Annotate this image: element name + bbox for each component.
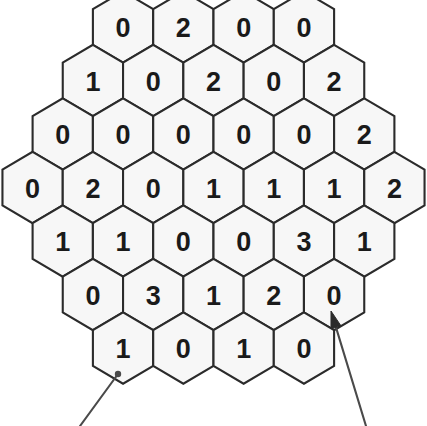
hex-cell-value: 1 bbox=[206, 174, 221, 204]
hex-cell-value: 2 bbox=[387, 174, 402, 204]
hex-cell-value: 1 bbox=[327, 174, 342, 204]
hex-cell-value: 0 bbox=[327, 281, 342, 311]
hex-cell-value: 0 bbox=[55, 120, 70, 150]
hex-cell-value: 0 bbox=[85, 281, 100, 311]
hex-cell-value: 0 bbox=[25, 174, 40, 204]
hex-cell-value: 0 bbox=[236, 227, 251, 257]
hex-cell-value: 0 bbox=[266, 67, 281, 97]
hex-cell-value: 0 bbox=[146, 174, 161, 204]
pointer-dot-icon bbox=[115, 371, 121, 377]
hex-cell-value: 0 bbox=[296, 120, 311, 150]
hex-cell-value: 0 bbox=[116, 13, 131, 43]
hex-cell-value: 0 bbox=[236, 13, 251, 43]
hex-cell-value: 0 bbox=[116, 120, 131, 150]
hex-cell-value: 3 bbox=[146, 281, 161, 311]
hex-cell-value: 1 bbox=[116, 227, 131, 257]
hex-cell-value: 0 bbox=[236, 120, 251, 150]
hex-cell-value: 1 bbox=[357, 227, 372, 257]
hex-cell-value: 0 bbox=[296, 13, 311, 43]
hex-cell-group: 0200102020000020201112110031031201010 bbox=[2, 0, 424, 384]
hex-cell-value: 0 bbox=[176, 227, 191, 257]
hex-cell-value: 1 bbox=[266, 174, 281, 204]
arrow-bottom-right bbox=[331, 311, 366, 426]
hex-cell-value: 2 bbox=[206, 67, 221, 97]
hex-cell-value: 2 bbox=[266, 281, 281, 311]
hex-cell-value: 0 bbox=[296, 334, 311, 364]
hex-cell-value: 3 bbox=[296, 227, 311, 257]
hex-cell-value: 1 bbox=[55, 227, 70, 257]
pointer-leader-line bbox=[333, 319, 366, 426]
hex-grid-canvas: 0200102020000020201112110031031201010 bbox=[0, 0, 427, 426]
hex-cell-value: 0 bbox=[146, 67, 161, 97]
hex-cell-value: 0 bbox=[176, 334, 191, 364]
hex-cell-value: 0 bbox=[176, 120, 191, 150]
hex-cell-value: 2 bbox=[327, 67, 342, 97]
leader-line-bottom-left bbox=[80, 371, 121, 426]
hex-cell-value: 1 bbox=[206, 281, 221, 311]
hex-cell-value: 1 bbox=[85, 67, 100, 97]
hex-cell-value: 2 bbox=[85, 174, 100, 204]
hex-cell-value: 2 bbox=[357, 120, 372, 150]
pointer-leader-line bbox=[80, 374, 118, 426]
hex-cell-value: 1 bbox=[116, 334, 131, 364]
hex-cell-value: 2 bbox=[176, 13, 191, 43]
hex-cell-value: 1 bbox=[236, 334, 251, 364]
hex-grid-figure: 0200102020000020201112110031031201010 bbox=[0, 0, 427, 426]
